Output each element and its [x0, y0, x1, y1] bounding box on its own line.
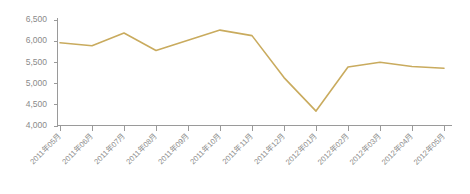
- x-tick-label: 2012年01月: [283, 130, 319, 166]
- x-tick-label: 2012年04月: [379, 130, 415, 166]
- x-tick-label: 2012年02月: [315, 130, 351, 166]
- x-tick-label: 2012年03月: [347, 130, 383, 166]
- y-axis-tick-labels: 4,0004,5005,0005,5006,0006,500: [26, 14, 48, 130]
- y-tick-label: 6,500: [26, 14, 48, 24]
- x-tick-label: 2011年12月: [252, 130, 288, 166]
- x-tick-label: 2012年05月: [411, 130, 447, 166]
- x-tick-label: 2011年05月: [28, 130, 64, 166]
- y-tick-label: 4,000: [26, 120, 48, 130]
- x-tick-label: 2011年09月: [156, 130, 192, 166]
- series-line-1: [60, 30, 444, 111]
- x-tick-label: 2011年07月: [92, 130, 128, 166]
- x-tick-label: 2011年11月: [220, 130, 256, 166]
- y-tick-label: 5,000: [26, 78, 48, 88]
- y-tick-label: 6,000: [26, 35, 48, 45]
- y-tick-label: 4,500: [26, 99, 48, 109]
- x-axis-tick-labels: 2011年05月2011年06月2011年07月2011年08月2011年09月…: [28, 130, 448, 166]
- chart-canvas: 4,0004,5005,0005,5006,0006,500 2011年05月2…: [0, 0, 470, 194]
- x-tick-label: 2011年06月: [60, 130, 96, 166]
- x-tick-label: 2011年10月: [188, 130, 224, 166]
- y-tick-label: 5,500: [26, 57, 48, 67]
- x-tick-label: 2011年08月: [124, 130, 160, 166]
- x-axis-tick-marks: [61, 126, 445, 131]
- y-axis-tick-marks: [54, 21, 58, 127]
- line-chart: 4,0004,5005,0005,5006,0006,500 2011年05月2…: [0, 0, 470, 194]
